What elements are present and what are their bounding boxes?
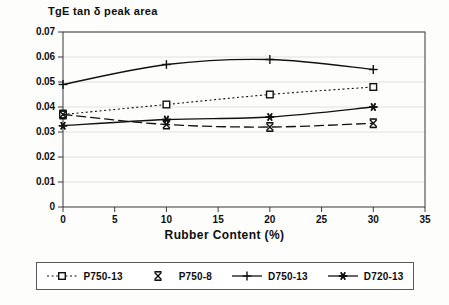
series-line <box>63 87 373 115</box>
x-axis-title-text: Rubber Content (%) <box>165 228 285 242</box>
x-axis-tick-label: 0 <box>50 214 76 225</box>
x-axis-tick-label: 35 <box>412 214 438 225</box>
y-axis-tick-label: 0.03 <box>21 126 55 137</box>
data-point-marker <box>59 273 66 280</box>
y-axis-tick-label: 0.06 <box>21 51 55 62</box>
data-point-marker <box>163 101 170 108</box>
x-axis-tick-label: 25 <box>309 214 335 225</box>
x-axis-tick-label: 30 <box>360 214 386 225</box>
legend-item-d720-13[interactable]: D720-13 <box>327 270 404 282</box>
chart-legend: P750-13P750-8D750-13D720-13 <box>36 262 414 290</box>
y-axis-tick-label: 0.02 <box>21 151 55 162</box>
y-axis-tick-label: 0.07 <box>21 26 55 37</box>
series-p750-13 <box>60 84 377 118</box>
legend-item-d750-13[interactable]: D750-13 <box>231 270 308 282</box>
legend-swatch-open-square-icon <box>46 270 78 282</box>
series-line <box>63 115 373 128</box>
legend-swatch-x-cross-icon <box>142 270 174 282</box>
legend-label: D750-13 <box>268 271 308 282</box>
legend-label: P750-13 <box>83 271 122 282</box>
legend-item-p750-13[interactable]: P750-13 <box>46 270 122 282</box>
series-d750-13 <box>59 55 378 89</box>
y-axis-tick-label: 0.05 <box>21 76 55 87</box>
series-p750-8 <box>59 110 376 131</box>
data-point-marker <box>370 84 377 91</box>
legend-label: P750-8 <box>179 271 212 282</box>
x-axis-tick-label: 15 <box>205 214 231 225</box>
data-point-marker <box>267 91 274 98</box>
legend-item-p750-8[interactable]: P750-8 <box>142 270 212 282</box>
legend-swatch-plus-icon <box>231 270 263 282</box>
legend-label: D720-13 <box>364 271 404 282</box>
legend-swatch-asterisk-icon <box>327 270 359 282</box>
y-axis-tick-label: 0 <box>21 201 55 212</box>
chart-figure: TgE tan δ peak area 00.010.020.030.040.0… <box>0 0 449 305</box>
series-layer <box>59 55 378 131</box>
plot-canvas <box>0 0 449 305</box>
y-axis-tick-label: 0.01 <box>21 176 55 187</box>
x-axis-tick-label: 10 <box>153 214 179 225</box>
series-line <box>63 59 373 84</box>
x-axis-tick-label: 5 <box>102 214 128 225</box>
x-axis-tick-label: 20 <box>257 214 283 225</box>
x-axis-title: Rubber Content (%) <box>0 228 449 242</box>
y-axis-tick-label: 0.04 <box>21 101 55 112</box>
